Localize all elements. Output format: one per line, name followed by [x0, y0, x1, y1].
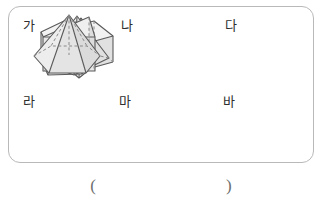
- figure-label-ba: 바: [223, 95, 235, 108]
- answer-row: ( ): [8, 168, 314, 202]
- solid-hexagonal-pyramid: [31, 11, 103, 79]
- answer-close-paren: ): [226, 177, 232, 194]
- figure-cell-da: [225, 17, 317, 93]
- figure-label-na: 나: [121, 19, 133, 32]
- figure-label-ma: 마: [119, 95, 131, 108]
- answer-blank[interactable]: [96, 176, 226, 194]
- worksheet-page: 가 나: [0, 0, 328, 206]
- figure-cell-ma: [121, 93, 225, 167]
- figure-label-ra: 라: [23, 95, 35, 108]
- figure-label-da: 다: [225, 19, 237, 32]
- solid-figures-panel: 가 나: [8, 6, 314, 163]
- figure-cell-na: [121, 17, 225, 93]
- figure-cell-ba: [225, 93, 317, 167]
- figure-cell-ra: [23, 93, 123, 167]
